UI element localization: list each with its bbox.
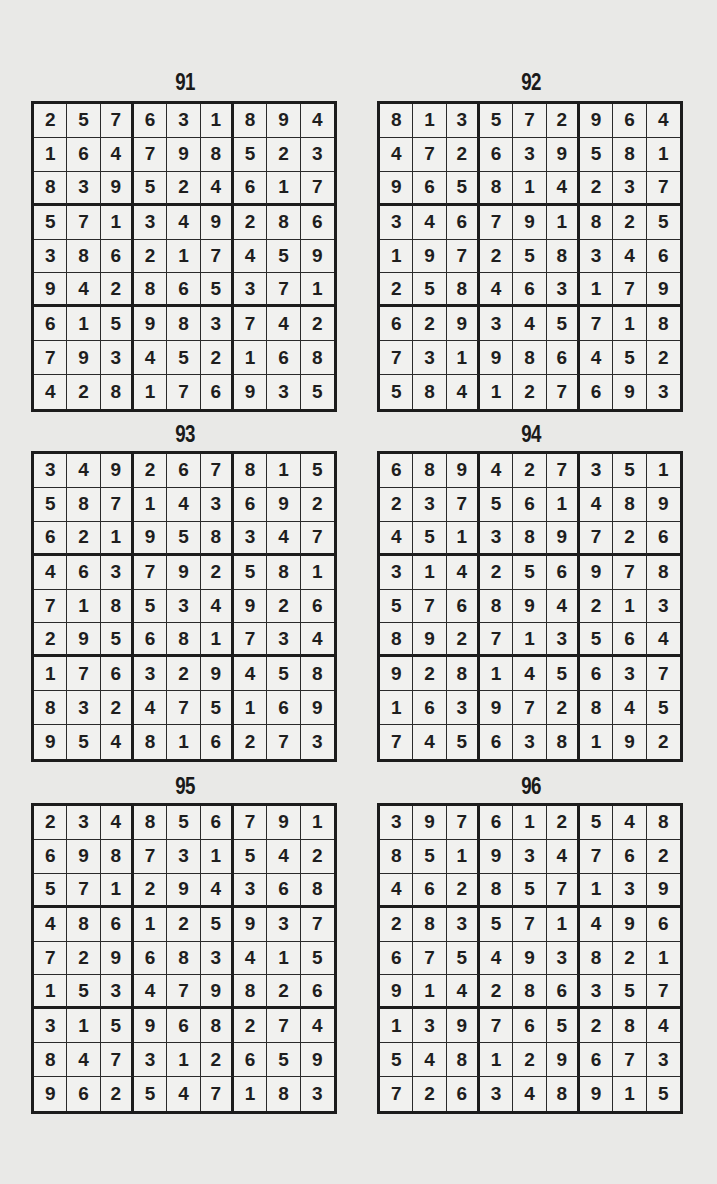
grid-cell: 7 (580, 522, 613, 556)
grid-cell: 1 (380, 1009, 413, 1043)
grid-cell: 1 (167, 240, 200, 274)
grid-cell: 4 (201, 172, 234, 206)
grid-cell: 5 (301, 375, 334, 409)
grid-cell: 1 (580, 273, 613, 307)
grid-cell: 1 (447, 840, 480, 874)
grid-cell: 3 (647, 1043, 680, 1077)
grid-cell: 7 (234, 623, 267, 657)
grid-cell: 1 (301, 806, 334, 840)
grid-cell: 8 (134, 273, 167, 307)
grid-cell: 4 (67, 1043, 100, 1077)
grid-cell: 6 (234, 1043, 267, 1077)
grid-cell: 4 (480, 273, 513, 307)
grid-cell: 8 (613, 1009, 646, 1043)
grid-cell: 9 (413, 623, 446, 657)
grid-cell: 5 (201, 908, 234, 942)
grid-cell: 9 (547, 522, 580, 556)
grid-cell: 8 (67, 908, 100, 942)
grid-cell: 5 (547, 1009, 580, 1043)
grid-cell: 6 (380, 942, 413, 976)
grid-cell: 4 (201, 590, 234, 624)
grid-cell: 9 (413, 240, 446, 274)
grid-cell: 8 (301, 657, 334, 691)
grid-cell: 6 (167, 1009, 200, 1043)
grid-cell: 8 (580, 691, 613, 725)
grid-cell: 2 (234, 1009, 267, 1043)
grid-cell: 6 (301, 975, 334, 1009)
grid-cell: 4 (647, 104, 680, 138)
grid-cell: 9 (513, 590, 546, 624)
grid-cell: 3 (267, 623, 300, 657)
grid-cell: 4 (201, 874, 234, 908)
grid-cell: 6 (67, 138, 100, 172)
grid-cell: 2 (580, 590, 613, 624)
grid-cell: 7 (134, 840, 167, 874)
grid-cell: 6 (547, 975, 580, 1009)
grid-cell: 6 (513, 1009, 546, 1043)
grid-cell: 3 (613, 657, 646, 691)
grid-cell: 5 (580, 138, 613, 172)
grid-cell: 3 (413, 488, 446, 522)
grid-cell: 8 (547, 240, 580, 274)
grid-cell: 7 (447, 806, 480, 840)
grid-cell: 7 (167, 691, 200, 725)
grid-cell: 2 (380, 908, 413, 942)
grid-cell: 7 (167, 375, 200, 409)
grid-cell: 4 (101, 138, 134, 172)
grid-cell: 2 (201, 341, 234, 375)
grid-cell: 7 (301, 172, 334, 206)
grid-cell: 6 (267, 874, 300, 908)
grid-cell: 9 (34, 1077, 67, 1111)
grid-cell: 4 (513, 657, 546, 691)
grid-cell: 8 (234, 454, 267, 488)
grid-cell: 1 (480, 1043, 513, 1077)
grid-cell: 3 (413, 1009, 446, 1043)
grid-cell: 4 (67, 454, 100, 488)
grid-cell: 5 (480, 908, 513, 942)
grid-cell: 1 (547, 488, 580, 522)
grid-cell: 7 (547, 874, 580, 908)
grid-cell: 1 (267, 454, 300, 488)
grid-cell: 8 (513, 975, 546, 1009)
grid-cell: 1 (480, 375, 513, 409)
grid-cell: 5 (134, 1077, 167, 1111)
grid-cell: 9 (201, 975, 234, 1009)
grid-cell: 5 (480, 104, 513, 138)
grid-cell: 5 (447, 725, 480, 759)
grid-cell: 3 (580, 454, 613, 488)
grid-cell: 2 (547, 806, 580, 840)
grid-cell: 4 (380, 522, 413, 556)
grid-cell: 4 (267, 840, 300, 874)
grid-cell: 3 (134, 657, 167, 691)
grid-cell: 3 (34, 454, 67, 488)
grid-cell: 1 (34, 138, 67, 172)
grid-cell: 4 (34, 375, 67, 409)
grid-cell: 8 (34, 691, 67, 725)
grid-cell: 3 (101, 556, 134, 590)
grid-cell: 4 (101, 806, 134, 840)
grid-cell: 5 (513, 240, 546, 274)
grid-cell: 3 (34, 240, 67, 274)
grid-cell: 9 (267, 104, 300, 138)
grid-cell: 8 (134, 806, 167, 840)
grid-cell: 3 (201, 488, 234, 522)
grid-cell: 6 (413, 874, 446, 908)
grid-cell: 1 (613, 307, 646, 341)
grid-cell: 6 (547, 341, 580, 375)
grid-cell: 4 (447, 375, 480, 409)
grid-cell: 2 (613, 942, 646, 976)
grid-cell: 3 (67, 691, 100, 725)
grid-cell: 4 (547, 590, 580, 624)
grid-cell: 3 (101, 341, 134, 375)
grid-cell: 5 (67, 975, 100, 1009)
grid-cell: 2 (447, 874, 480, 908)
grid-cell: 5 (447, 172, 480, 206)
grid-cell: 1 (267, 942, 300, 976)
grid-cell: 2 (201, 556, 234, 590)
grid-cell: 6 (67, 1077, 100, 1111)
grid-cell: 8 (101, 375, 134, 409)
grid-cell: 3 (67, 806, 100, 840)
grid-cell: 5 (413, 840, 446, 874)
grid-cell: 5 (613, 454, 646, 488)
grid-cell: 6 (34, 522, 67, 556)
